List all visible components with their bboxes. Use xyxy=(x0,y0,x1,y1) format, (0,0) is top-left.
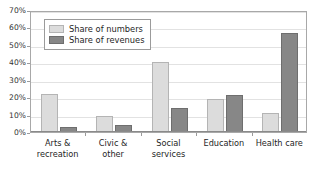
x-axis-labels: Arts & recreationCivic & otherSocial ser… xyxy=(30,136,307,166)
bar xyxy=(96,116,113,132)
y-axis-tick-mark xyxy=(27,28,30,29)
y-axis: 0%10%20%30%40%50%60%70% xyxy=(0,11,28,133)
x-axis-tick-mark xyxy=(196,133,197,136)
x-axis-baseline xyxy=(31,131,306,132)
y-axis-tick-mark xyxy=(27,11,30,12)
y-axis-tick-mark xyxy=(27,98,30,99)
x-axis-category-label: Social services xyxy=(141,138,196,159)
bar xyxy=(152,62,169,132)
grouped-bar-chart: 0%10%20%30%40%50%60%70% Share of numbers… xyxy=(0,0,313,169)
y-axis-tick-label: 0% xyxy=(0,129,26,137)
y-axis-tick-mark xyxy=(27,63,30,64)
x-axis-tick-mark xyxy=(85,133,86,136)
x-axis-category-label: Civic & other xyxy=(85,138,140,159)
legend: Share of numbers Share of revenues xyxy=(44,19,151,50)
legend-item-share-of-numbers: Share of numbers xyxy=(49,24,145,34)
legend-label-numbers: Share of numbers xyxy=(69,25,143,34)
bar xyxy=(207,99,224,132)
y-axis-tick-label: 30% xyxy=(0,77,26,85)
y-axis-tick-mark xyxy=(27,116,30,117)
y-axis-tick-mark xyxy=(27,133,30,134)
bar xyxy=(171,108,188,132)
legend-swatch-icon-numbers xyxy=(49,25,64,33)
y-axis-tick-mark xyxy=(27,46,30,47)
bar xyxy=(262,113,279,132)
legend-label-revenues: Share of revenues xyxy=(69,36,145,45)
x-axis-category-label: Education xyxy=(196,138,251,149)
x-axis-tick-mark xyxy=(252,133,253,136)
y-axis-tick-label: 10% xyxy=(0,112,26,120)
bar xyxy=(226,95,243,132)
legend-item-share-of-revenues: Share of revenues xyxy=(49,35,145,45)
bar xyxy=(281,33,298,132)
y-axis-tick-label: 20% xyxy=(0,94,26,102)
y-axis-tick-label: 40% xyxy=(0,59,26,67)
legend-swatch-icon-revenues xyxy=(49,36,64,44)
y-axis-tick-label: 60% xyxy=(0,24,26,32)
y-axis-tick-mark xyxy=(27,81,30,82)
bar xyxy=(41,94,58,132)
x-axis-category-label: Health care xyxy=(252,138,307,149)
y-axis-tick-label: 50% xyxy=(0,42,26,50)
x-axis-category-label: Arts & recreation xyxy=(30,138,85,159)
y-axis-tick-label: 70% xyxy=(0,7,26,15)
x-axis-tick-mark xyxy=(141,133,142,136)
